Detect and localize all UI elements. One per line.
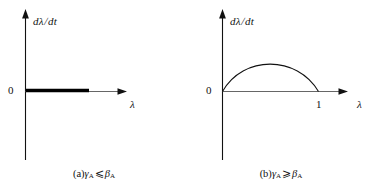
panel-a: dλ/dt 0 λ (a)γA⩽βA — [0, 0, 188, 193]
x-axis-b — [223, 88, 349, 94]
plot-b — [187, 0, 375, 165]
origin-label-a: 0 — [8, 85, 14, 96]
x-axis-label-b: λ — [357, 99, 362, 110]
plot-a — [0, 0, 188, 165]
curve-b-arc — [223, 64, 319, 91]
caption-b-relation: ⩾ — [281, 168, 292, 179]
caption-a-right-sub: A — [110, 172, 115, 180]
x-tick-label-one-b: 1 — [316, 99, 322, 110]
y-axis-b — [219, 9, 226, 160]
caption-a-index: (a) — [73, 168, 85, 179]
panel-b: dλ/dt 0 1 λ (b)γA⩾βA — [187, 0, 375, 193]
caption-a: (a)γA⩽βA — [0, 168, 188, 181]
y-axis-label-b: dλ/dt — [230, 16, 254, 27]
caption-a-relation: ⩽ — [94, 168, 105, 179]
origin-label-b: 0 — [206, 85, 212, 96]
y-axis-a — [22, 9, 29, 160]
caption-b: (b)γA⩾βA — [187, 168, 375, 181]
y-label-t: t — [251, 15, 254, 27]
y-label-t: t — [54, 15, 57, 27]
caption-b-right-sub: A — [297, 172, 302, 180]
figure-container: dλ/dt 0 λ (a)γA⩽βA dλ/d — [0, 0, 375, 193]
x-axis-label-a: λ — [130, 99, 135, 110]
caption-b-index: (b) — [260, 168, 272, 179]
y-axis-label-a: dλ/dt — [33, 16, 57, 27]
